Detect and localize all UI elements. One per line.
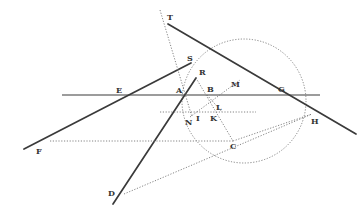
label-d: D [108,188,115,198]
label-i: I [196,113,200,123]
geometry-diagram: T S R E A B M G L I K N H C F D [0,0,363,213]
dotted-d-h [124,114,312,194]
label-n: N [185,117,192,127]
label-k: K [210,113,218,123]
label-m: M [231,79,240,89]
dotted-c-h [233,114,312,141]
label-b: B [207,84,214,94]
label-c: C [230,141,236,151]
label-h: H [311,116,319,126]
label-f: F [36,146,42,156]
label-s: S [187,53,193,63]
label-r: R [199,67,206,77]
diagram-canvas: T S R E A B M G L I K N H C F D [0,0,363,213]
dotted-t-n [160,10,192,117]
label-a: A [175,85,183,95]
label-l: L [216,102,222,112]
dotted-r-c [196,78,233,141]
label-g: G [278,84,285,94]
label-t: T [167,12,173,22]
label-e: E [116,85,122,95]
line-fs [24,63,191,149]
dotted-circle [182,39,306,163]
